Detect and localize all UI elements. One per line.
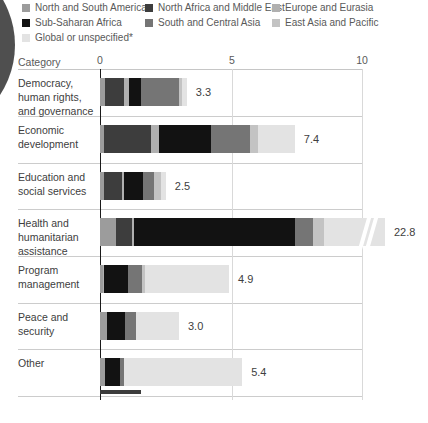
category-label: Other [18,356,98,370]
category-label-line: Program [18,263,98,277]
category-label-line: humanitarian [18,230,98,244]
bar-segment [134,218,295,246]
category-label-line: management [18,277,98,291]
bar-segment [151,125,159,153]
legend-item: Sub-Saharan Africa [22,17,122,29]
bar-segment [124,358,242,386]
bar-segment [104,265,128,293]
category-label-line: human rights, [18,90,98,104]
bar-row [100,172,166,200]
category-label-line: Peace and [18,310,98,324]
value-label: 3.0 [188,320,203,332]
legend-label: Europe and Eurasia [285,2,373,13]
legend-label: Sub-Saharan Africa [35,17,122,28]
legend-item: South and Central Asia [145,17,260,29]
category-label: Education andsocial services [18,170,98,198]
bar-segment [211,125,250,153]
bar-segment [250,125,258,153]
bar-segment [128,265,142,293]
legend-swatch [22,34,30,42]
bar-segment [182,78,187,106]
clipped-bar-fragment [100,390,141,394]
legend-label: North Africa and Middle East [158,2,285,13]
bar-segment [100,312,107,340]
legend-item: North and South America [22,2,147,14]
category-column-header: Category [18,56,61,68]
bar-segment [124,172,144,200]
bar-segment [129,78,141,106]
value-label: 2.5 [175,180,190,192]
legend-label: South and Central Asia [158,17,260,28]
legend-swatch [22,4,30,12]
category-label-line: development [18,137,98,151]
bar-segment [100,218,116,246]
bar-segment [154,172,161,200]
category-label-line: social services [18,184,98,198]
bar-segment [107,312,125,340]
bar-segment [105,78,123,106]
bar-row [100,125,295,153]
legend-item: North Africa and Middle East [145,2,285,14]
bar-segment [104,172,122,200]
category-label-line: Democracy, [18,76,98,90]
bar-segment [125,312,136,340]
category-label-line: assistance [18,244,98,258]
category-label-line: Health and [18,216,98,230]
bar-segment [143,172,154,200]
legend-swatch [272,4,280,12]
legend-swatch [22,19,30,27]
value-label: 7.4 [304,133,319,145]
legend-item: Europe and Eurasia [272,2,373,14]
legend-label: North and South America [35,2,147,13]
category-label: Health andhumanitarianassistance [18,216,98,258]
bar-segment [258,125,295,153]
legend-label: East Asia and Pacific [285,17,378,28]
bar-row [100,78,187,106]
legend-swatch [145,4,153,12]
legend-item: Global or unspecified* [22,32,133,44]
tick-label: 5 [229,54,235,66]
corner-decoration [0,0,15,136]
row-separator [18,303,362,304]
value-label: 22.8 [394,226,415,238]
legend-item: East Asia and Pacific [272,17,378,29]
bar-segment [105,358,119,386]
legend-swatch [145,19,153,27]
bar-segment [161,172,166,200]
row-separator [18,209,362,210]
bar-segment [136,312,179,340]
category-label: Economicdevelopment [18,123,98,151]
legend-swatch [272,19,280,27]
bar-segment [295,218,313,246]
bar-segment [145,265,229,293]
value-label: 5.4 [251,366,266,378]
tick-label: 0 [97,54,103,66]
category-label-line: Education and [18,170,98,184]
value-label: 4.9 [238,273,253,285]
header-underline [18,69,362,70]
value-label: 3.3 [196,86,211,98]
row-separator [18,163,362,164]
category-label-line: and governance [18,104,98,118]
bar-row [100,312,179,340]
category-label: Peace andsecurity [18,310,98,338]
category-label-line: security [18,324,98,338]
bar-segment [159,125,210,153]
row-separator [18,349,362,350]
bar-segment [104,125,151,153]
bar-row [100,358,242,386]
bar-segment [116,218,132,246]
tick-label: 10 [356,54,368,66]
category-label: Democracy,human rights,and governance [18,76,98,118]
legend-label: Global or unspecified* [35,32,133,43]
stacked-bar-chart: North and South AmericaNorth Africa and … [0,0,428,423]
category-label: Programmanagement [18,263,98,291]
category-label-line: Other [18,356,98,370]
category-label-line: Economic [18,123,98,137]
bar-row [100,218,385,246]
bar-segment [313,218,324,246]
bar-row [100,265,229,293]
row-separator [18,396,362,397]
bar-segment [141,78,179,106]
